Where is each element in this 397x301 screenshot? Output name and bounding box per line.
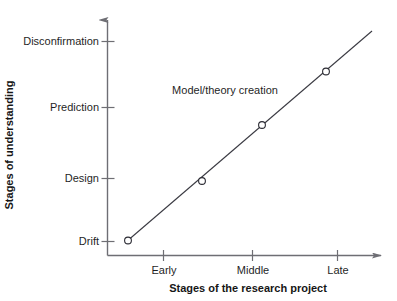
x-tick-label-middle: Middle <box>237 265 269 276</box>
x-axis-title: Stages of the research project <box>169 283 327 294</box>
x-tick-label-late: Late <box>327 265 348 276</box>
y-tick-label-drift: Drift <box>79 236 99 247</box>
data-point-marker <box>125 237 132 244</box>
y-tick-label-disconfirmation: Disconfirmation <box>23 36 99 47</box>
x-tick-label-early: Early <box>151 265 176 276</box>
y-axis-title: Stages of understanding <box>4 81 15 210</box>
chart-figure: Disconfirmation Prediction Design Drift … <box>0 0 397 301</box>
data-point-marker <box>323 68 330 75</box>
y-tick-label-prediction: Prediction <box>50 102 99 113</box>
y-tick-label-design: Design <box>65 173 99 184</box>
data-point-marker <box>259 122 266 129</box>
trend-line <box>126 31 372 242</box>
data-point-marker <box>199 178 206 185</box>
plot-annotation-model-theory-creation: Model/theory creation <box>172 85 278 96</box>
